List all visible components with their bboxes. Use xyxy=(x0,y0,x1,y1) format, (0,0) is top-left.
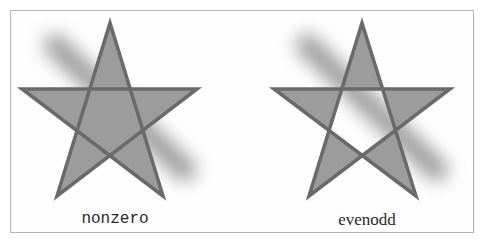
evenodd-label: evenodd xyxy=(307,210,427,230)
nonzero-label: nonzero xyxy=(55,210,175,228)
evenodd-panel xyxy=(274,23,450,196)
fill-rule-figure xyxy=(0,0,486,242)
nonzero-panel xyxy=(22,23,197,196)
